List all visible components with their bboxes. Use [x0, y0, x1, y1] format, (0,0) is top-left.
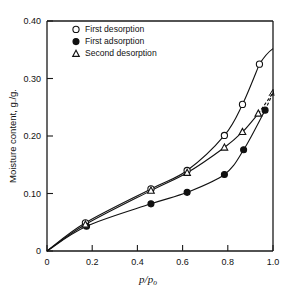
chart-background — [0, 0, 294, 294]
x-tick-label: 0.2 — [86, 257, 99, 267]
x-tick-label: 1.0 — [267, 257, 280, 267]
data-point-1-2 — [148, 201, 154, 207]
x-tick-label: 0.6 — [176, 257, 189, 267]
data-point-legend-1 — [73, 39, 79, 45]
sorption-isotherm-chart: 00.100.200.300.40 00.20.40.60.81.0 First… — [0, 0, 294, 294]
y-axis-title: Moisture content, g./g. — [7, 89, 18, 183]
y-tick-label: 0.20 — [23, 131, 41, 141]
data-point-1-3 — [184, 189, 190, 195]
y-tick-label: 0.40 — [23, 16, 41, 26]
chart-figure: 00.100.200.300.40 00.20.40.60.81.0 First… — [0, 0, 294, 294]
data-point-1-4 — [221, 172, 227, 178]
data-point-0-6 — [256, 61, 262, 67]
y-axis-title-text: Moisture content, g./g. — [7, 89, 18, 183]
x-tick-label: 0 — [44, 257, 49, 267]
data-point-0-4 — [221, 132, 227, 138]
legend-label-second-desorption: Second desorption — [85, 48, 157, 58]
legend-label-first-desorption: First desorption — [85, 24, 144, 34]
data-point-0-5 — [239, 101, 245, 107]
legend-label-first-adsorption: First adsorption — [85, 36, 144, 46]
data-point-legend-0 — [73, 26, 79, 32]
data-point-1-5 — [241, 147, 247, 153]
y-tick-label: 0.30 — [23, 74, 41, 84]
x-tick-label: 0.8 — [222, 257, 235, 267]
x-tick-label: 0.4 — [131, 257, 144, 267]
data-point-1-6 — [262, 107, 268, 113]
y-tick-label: 0.10 — [23, 189, 41, 199]
y-tick-label: 0 — [36, 246, 41, 256]
